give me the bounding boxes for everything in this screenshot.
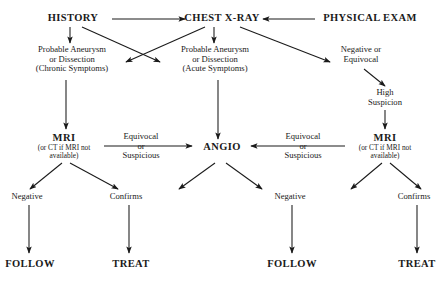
node-treat-left[interactable]: TREAT [112, 258, 149, 270]
edge-label-negative-right: Negative [274, 192, 305, 202]
node-physical-exam[interactable]: PHYSICAL EXAM [323, 12, 417, 24]
node-probable-aneurysm-chronic[interactable]: Probable Aneurysm or Dissection (Chronic… [36, 45, 108, 74]
edge-label-confirms-left: Confirms [110, 192, 142, 202]
edge-label-confirms-right: Confirms [398, 192, 430, 202]
edge-angio-to-negative [179, 163, 215, 189]
node-follow-left[interactable]: FOLLOW [5, 258, 55, 270]
node-follow-right[interactable]: FOLLOW [267, 258, 317, 270]
edge-mri-right-to-negative [351, 163, 382, 189]
node-mri-left[interactable]: MRI (or CT if MRI not available) [38, 132, 91, 160]
node-probable-aneurysm-acute[interactable]: Probable Aneurysm or Dissection (Acute S… [181, 45, 249, 74]
edge-negative-to-high-suspicion [364, 69, 385, 86]
edge-label-equivocal-suspicious-right: Equivocal or Suspicious [284, 132, 321, 161]
node-treat-right[interactable]: TREAT [398, 258, 435, 270]
node-chest-xray[interactable]: CHEST X-RAY [184, 12, 259, 24]
edge-mri-left-to-negative [30, 163, 62, 189]
node-angio[interactable]: ANGIO [203, 141, 241, 153]
edge-label-equivocal-suspicious-left: Equivocal or Suspicious [122, 132, 159, 161]
node-mri-right[interactable]: MRI (or CT if MRI not available) [359, 132, 412, 160]
node-history[interactable]: HISTORY [48, 12, 99, 24]
edge-label-negative-left: Negative [11, 192, 42, 202]
node-negative-or-equivocal[interactable]: Negative or Equivocal [341, 45, 381, 64]
edge-mri-right-to-confirms [390, 163, 421, 189]
edge-mri-left-to-confirms [70, 163, 118, 189]
edge-angio-to-confirms [226, 163, 262, 189]
edge-chest-xray-to-negative [240, 27, 330, 62]
flowchart-diagram: HISTORY CHEST X-RAY PHYSICAL EXAM Probab… [0, 0, 445, 286]
node-high-suspicion[interactable]: High Suspicion [368, 88, 402, 107]
